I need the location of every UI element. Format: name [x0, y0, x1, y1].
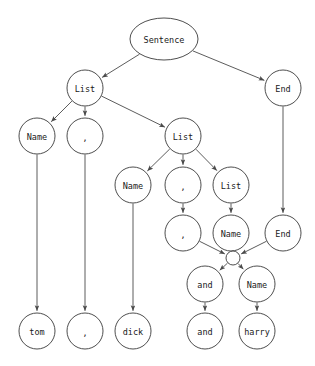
tree-node-comma1[interactable]: , [67, 118, 103, 154]
tree-node-and1[interactable]: and [187, 266, 223, 302]
tree-node-end1[interactable]: End [265, 70, 301, 106]
tree-node-sentence[interactable]: Sentence [130, 18, 198, 60]
node-outline-andleaf [187, 313, 223, 349]
node-outline-list3 [213, 167, 249, 203]
tree-node-list1[interactable]: List [67, 70, 103, 106]
node-outline-name2 [115, 167, 151, 203]
tree-node-name1[interactable]: Name [19, 118, 55, 154]
node-outline-sentence [130, 18, 198, 60]
tree-edge [102, 54, 139, 77]
node-outline-end1 [265, 70, 301, 106]
node-outline-tom [19, 313, 55, 349]
node-outline-name4 [239, 266, 275, 302]
tree-edge [51, 101, 72, 122]
tree-edge [193, 51, 265, 80]
node-outline-commaleaf [67, 313, 103, 349]
tree-node-name3[interactable]: Name [213, 215, 249, 251]
node-outline-comma3 [165, 215, 201, 251]
tree-edge [238, 264, 243, 270]
node-outline-dick [115, 313, 151, 349]
node-outline-end2 [265, 215, 301, 251]
tree-node-list3[interactable]: List [213, 167, 249, 203]
tree-node-junction[interactable] [226, 251, 240, 265]
tree-node-end2[interactable]: End [265, 215, 301, 251]
tree-edge [220, 263, 228, 270]
node-outline-and1 [187, 266, 223, 302]
node-outline-name1 [19, 118, 55, 154]
tree-node-commaleaf[interactable]: , [67, 313, 103, 349]
tree-edge [196, 149, 217, 170]
nodes-layer: SentenceListEndName,ListName,List,NameEn… [19, 18, 301, 349]
tree-edge [147, 149, 169, 171]
tree-node-andleaf[interactable]: and [187, 313, 223, 349]
tree-node-name2[interactable]: Name [115, 167, 151, 203]
tree-node-comma3[interactable]: , [165, 215, 201, 251]
node-outline-list2 [165, 118, 201, 154]
tree-node-tom[interactable]: tom [19, 313, 55, 349]
tree-node-harry[interactable]: harry [239, 313, 275, 349]
tree-node-list2[interactable]: List [165, 118, 201, 154]
node-outline-list1 [67, 70, 103, 106]
node-outline-name3 [213, 215, 249, 251]
tree-node-comma2[interactable]: , [165, 167, 201, 203]
node-outline-junction [226, 251, 240, 265]
node-outline-harry [239, 313, 275, 349]
tree-node-name4[interactable]: Name [239, 266, 275, 302]
tree-canvas: SentenceListEndName,ListName,List,NameEn… [0, 0, 315, 366]
tree-node-dick[interactable]: dick [115, 313, 151, 349]
tree-edge [102, 96, 165, 127]
parse-tree-diagram: SentenceListEndName,ListName,List,NameEn… [0, 0, 315, 366]
node-outline-comma1 [67, 118, 103, 154]
node-outline-comma2 [165, 167, 201, 203]
